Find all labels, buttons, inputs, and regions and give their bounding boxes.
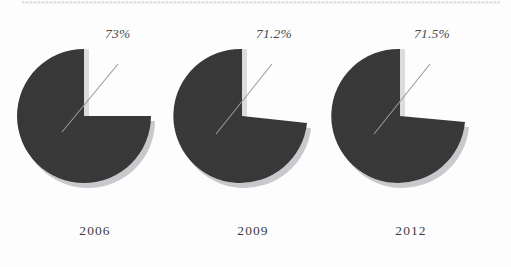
percent-label-2009: 71.2% (256, 26, 292, 42)
pie-chart-2006: 73% (10, 0, 180, 267)
pie-chart-2012: 71.5% (326, 0, 496, 267)
percent-label-2012: 71.5% (414, 26, 450, 42)
pie-svg-2009 (168, 42, 338, 207)
percent-label-2006: 73% (105, 26, 130, 42)
pie-svg-2012 (326, 42, 496, 207)
pie-chart-2009: 71.2% (168, 0, 338, 267)
year-label-2006: 2006 (10, 223, 180, 239)
pie-slice-2006 (17, 49, 151, 183)
pie-graphic-2006 (10, 42, 180, 207)
pie-edge-highlight-2012 (400, 49, 405, 116)
pie-chart-figure: 73% (0, 0, 511, 267)
pie-graphic-2012 (326, 42, 496, 207)
pie-svg-2006 (10, 42, 180, 207)
year-label-2012: 2012 (326, 223, 496, 239)
pie-edge-highlight-2009 (242, 49, 247, 116)
pie-graphic-2009 (168, 42, 338, 207)
pie-edge-highlight-2006 (84, 49, 89, 116)
pie-slice-2009 (173, 49, 307, 183)
pie-slice-2012 (331, 49, 465, 183)
year-label-2009: 2009 (168, 223, 338, 239)
